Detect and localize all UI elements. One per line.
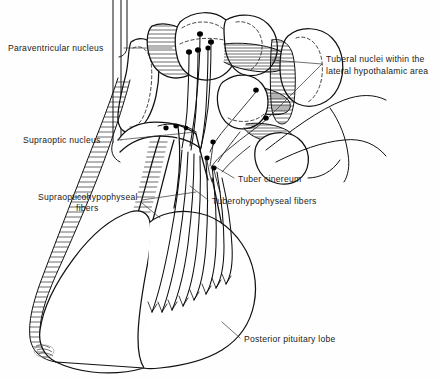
hypothalamo-hypophyseal-diagram: Paraventricular nucleus Tuberal nuclei w… xyxy=(0,0,441,379)
label-posterior-pituitary-lobe: Posterior pituitary lobe xyxy=(244,334,336,344)
label-tuber-cinereum: Tuber cinereum xyxy=(238,174,301,184)
label-supraoptic-nucleus: Supraoptic nucleus xyxy=(23,135,101,145)
anatomical-figure: Paraventricular nucleus Tuberal nuclei w… xyxy=(0,0,441,379)
label-tuberohypophyseal-fibers: Tuberohypophyseal fibers xyxy=(212,196,317,206)
middle-right-lobe xyxy=(217,75,268,129)
label-tuberal-nuclei-line1: Tuberal nuclei within the xyxy=(326,54,425,64)
label-supraopticohypophyseal-line1: Supraopticohypophyseal xyxy=(38,192,138,202)
label-paraventricular-nucleus: Paraventricular nucleus xyxy=(8,43,104,53)
label-supraopticohypophyseal-line2: fibers xyxy=(76,203,99,213)
label-tuberal-nuclei-line2: lateral hypothalamic area xyxy=(326,66,428,76)
soma-supraoptic-1 xyxy=(163,126,168,131)
